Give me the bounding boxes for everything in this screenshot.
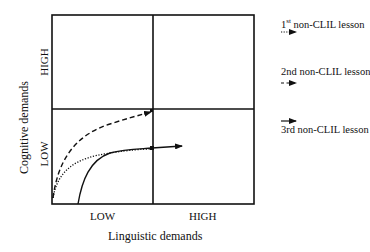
dashed-end-point xyxy=(150,109,153,112)
legend-label: non-CLIL lesson xyxy=(291,19,365,30)
y-low-label: LOW xyxy=(38,139,50,169)
legend-2nd-lesson: 2nd non-CLIL lesson xyxy=(281,66,370,77)
legend-3rd-lesson: 3rd non-CLIL lesson xyxy=(281,124,369,135)
curve-3rd-lesson xyxy=(78,146,182,204)
y-axis-title: Cognitive demands xyxy=(17,68,32,188)
legend-1st-lesson: 1st non-CLIL lesson xyxy=(281,17,365,30)
curve-2nd-lesson xyxy=(53,112,151,198)
x-high-label: HIGH xyxy=(189,210,217,222)
y-high-label: HIGH xyxy=(38,47,50,77)
x-low-label: LOW xyxy=(90,210,115,222)
convergence-point xyxy=(150,146,154,150)
x-axis-title: Linguistic demands xyxy=(108,229,202,244)
